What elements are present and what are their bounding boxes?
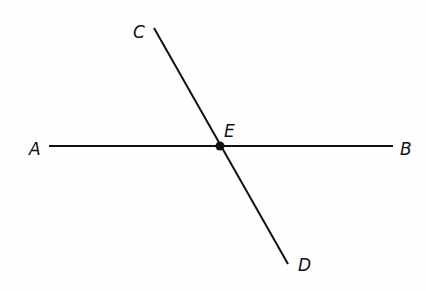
label-a: A xyxy=(28,139,41,159)
label-b: B xyxy=(400,139,412,159)
label-c: C xyxy=(133,22,145,42)
label-d: D xyxy=(298,255,311,275)
point-e-dot xyxy=(216,142,225,151)
label-e: E xyxy=(224,121,235,141)
geometry-diagram: C A E B D xyxy=(0,0,426,291)
